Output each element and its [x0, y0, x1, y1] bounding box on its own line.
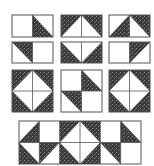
blocks-layer	[12, 15, 150, 164]
quilt-block-diagram	[0, 0, 154, 166]
quilt-block-r3c1	[12, 70, 53, 112]
quilt-block-r1c1	[12, 15, 53, 37]
quilt-block-r2c1	[12, 42, 53, 63]
quilt-block-r1c3	[109, 15, 150, 37]
quilt-block-r3c2	[61, 70, 102, 112]
quilt-block-r2c2	[61, 42, 102, 63]
quilt-block-r4-strip	[19, 121, 141, 164]
quilt-block-r1c2	[61, 15, 102, 37]
quilt-block-r2c3	[109, 42, 150, 63]
quilt-block-r3c3	[109, 70, 150, 112]
